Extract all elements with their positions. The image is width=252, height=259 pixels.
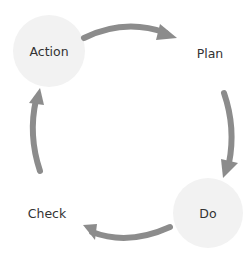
check-label: Check bbox=[28, 206, 66, 221]
action-node: Action bbox=[13, 15, 85, 87]
check-node: Check bbox=[17, 200, 77, 226]
do-node: Do bbox=[173, 178, 243, 248]
arrow-plan-to-do-icon bbox=[221, 93, 238, 178]
arrow-check-to-action-icon bbox=[29, 88, 44, 171]
do-label: Do bbox=[199, 206, 216, 221]
action-label: Action bbox=[29, 44, 68, 59]
plan-label: Plan bbox=[197, 46, 224, 61]
plan-node: Plan bbox=[180, 40, 240, 66]
arrow-action-to-plan-icon bbox=[84, 24, 177, 40]
arrow-do-to-check-icon bbox=[83, 224, 170, 240]
